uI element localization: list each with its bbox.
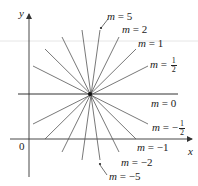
label-m0: m = 0 bbox=[151, 98, 176, 109]
label-m1: m = 1 bbox=[138, 38, 163, 49]
center-point bbox=[88, 92, 92, 96]
leader-m-neg5 bbox=[100, 165, 107, 175]
label-m-half: m = 12 bbox=[150, 57, 177, 74]
origin-label: 0 bbox=[19, 141, 25, 152]
label-m-neg-2: m = −2 bbox=[121, 157, 152, 168]
leader-m5-dot bbox=[100, 27, 102, 29]
label-m-neg-1: m = −1 bbox=[137, 142, 168, 153]
slope-pencil-diagram bbox=[0, 0, 198, 186]
label-m5: m = 5 bbox=[107, 11, 132, 22]
label-m-neg-half: m = −12 bbox=[152, 120, 185, 137]
label-m2: m = 2 bbox=[122, 24, 147, 35]
y-axis-label: y bbox=[19, 8, 24, 19]
x-axis-label: x bbox=[188, 146, 193, 157]
leader-m-neg5-dot bbox=[99, 163, 101, 165]
label-m-neg-5: m = −5 bbox=[109, 171, 140, 182]
